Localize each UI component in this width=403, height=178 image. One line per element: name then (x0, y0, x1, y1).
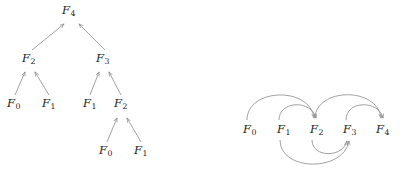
dag-edge-f2-f4 (315, 95, 381, 118)
dag-node-f0: F0 (243, 124, 256, 136)
tree-edge-f2-f4 (32, 24, 64, 50)
dag-node-f2: F2 (310, 124, 323, 136)
tree-node-f2-lower: F2 (114, 98, 127, 110)
dag-edge-f1-f3 (280, 140, 349, 164)
dag-edge-f0-f2 (247, 95, 314, 120)
tree-node-f3: F3 (96, 53, 109, 65)
tree-node-f1-left: F1 (42, 98, 55, 110)
tree-node-f0-bottom: F0 (99, 145, 112, 157)
dependency-dag-edges (200, 0, 403, 178)
tree-node-f4: F4 (62, 5, 75, 17)
tree-node-f0-left: F0 (7, 98, 20, 110)
tree-edge-f1-f3 (90, 72, 99, 95)
tree-node-f1-middle: F1 (83, 98, 96, 110)
dag-node-f4: F4 (376, 124, 389, 136)
tree-edge-f0-f2-left (15, 72, 25, 95)
figure-root: F4 F2 F3 F0 F1 F1 F2 F0 F1 (0, 0, 403, 178)
tree-edge-f2-f3 (109, 72, 121, 95)
tree-edge-f1-f2-lower (127, 118, 141, 142)
dag-edge-f3-f4 (346, 105, 383, 120)
dag-edge-f1-f2 (279, 105, 316, 120)
dag-node-f1: F1 (277, 124, 290, 136)
tree-node-f1-bottom: F1 (134, 145, 147, 157)
dependency-dag-panel: F0 F1 F2 F3 F4 (200, 0, 403, 178)
dag-edge-f2-f3 (312, 140, 347, 154)
tree-edge-f0-f2-lower (107, 118, 117, 142)
tree-edge-f1-f2-left (35, 72, 49, 95)
tree-node-f2-upper-left: F2 (22, 53, 35, 65)
recursion-tree-panel: F4 F2 F3 F0 F1 F1 F2 F0 F1 (0, 0, 200, 178)
dag-node-f3: F3 (343, 124, 356, 136)
tree-edge-f3-f4 (79, 24, 105, 50)
